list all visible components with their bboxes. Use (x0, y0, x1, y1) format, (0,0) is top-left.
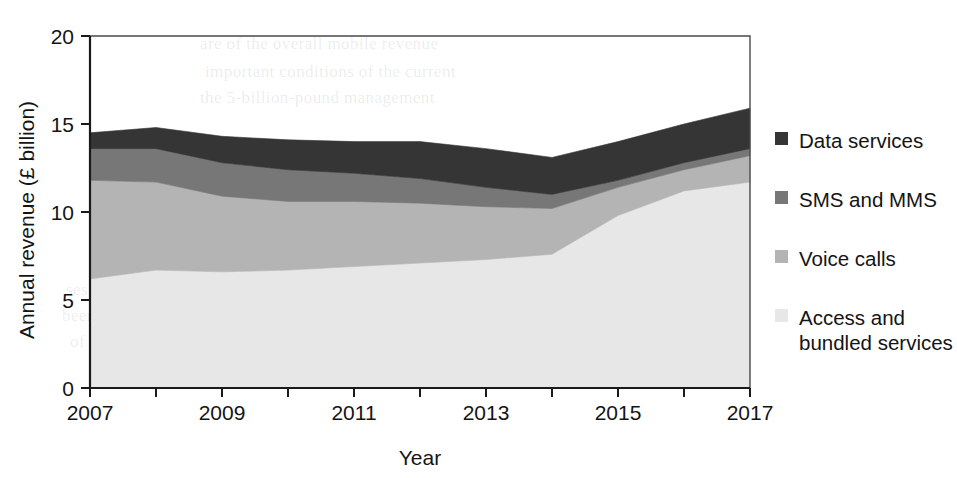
y-tick-label-15: 15 (51, 113, 74, 136)
legend-item-data-services[interactable]: Data services (775, 128, 955, 153)
x-tick-label-2015: 2015 (595, 401, 642, 424)
chart-figure: are of the overall mobile revenueimporta… (0, 0, 957, 478)
y-tick-label-20: 20 (51, 25, 74, 48)
x-tick-label-2013: 2013 (463, 401, 510, 424)
legend-swatch-icon (775, 250, 788, 263)
x-tick-label-2017: 2017 (727, 401, 774, 424)
y-axis-title: Annual revenue (£ billion) (15, 101, 38, 339)
x-tick-label-2009: 2009 (199, 401, 246, 424)
legend-swatch-icon (775, 132, 788, 145)
x-axis-title: Year (399, 446, 441, 469)
y-tick-label-0: 0 (62, 377, 74, 400)
legend-item-voice-calls[interactable]: Voice calls (775, 246, 955, 271)
legend-swatch-icon (775, 191, 788, 204)
legend-item-label: Data services (799, 128, 923, 153)
legend-item-label: Access and bundled services (799, 305, 953, 355)
legend-item-access-and-bundled-services[interactable]: Access and bundled services (775, 305, 955, 355)
legend-item-label: Voice calls (799, 246, 896, 271)
x-tick-label-2007: 2007 (67, 401, 114, 424)
legend-swatch-icon (775, 309, 788, 322)
y-tick-label-5: 5 (62, 289, 74, 312)
area-series-group (90, 108, 750, 388)
chart-legend: Data servicesSMS and MMSVoice callsAcces… (775, 128, 955, 389)
legend-item-sms-and-mms[interactable]: SMS and MMS (775, 187, 955, 212)
x-tick-label-2011: 2011 (331, 401, 376, 424)
legend-item-label: SMS and MMS (799, 187, 937, 212)
y-tick-label-10: 10 (51, 201, 74, 224)
